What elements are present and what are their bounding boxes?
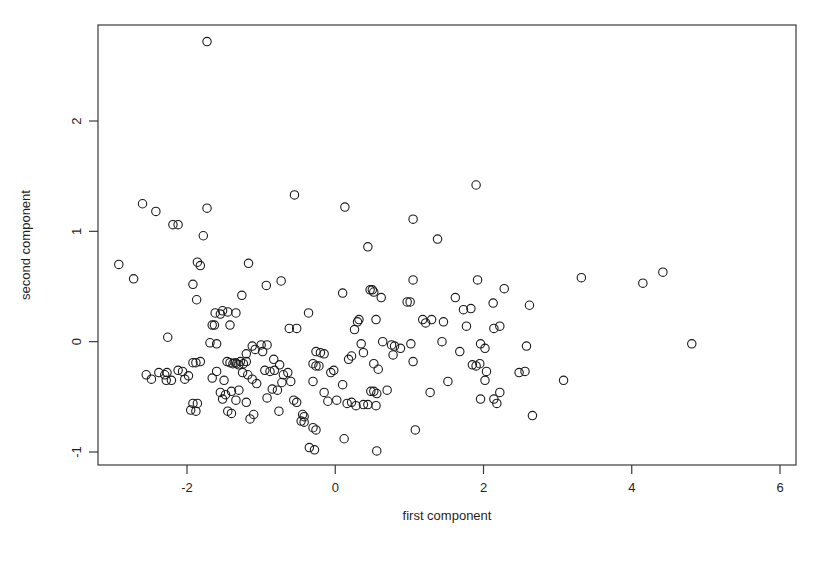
x-tick-label: 6 — [776, 480, 783, 495]
x-tick-label: 2 — [480, 480, 487, 495]
y-axis-title: second component — [18, 190, 33, 300]
x-axis-title: first component — [403, 508, 492, 523]
y-tick-label: -1 — [69, 446, 84, 458]
y-tick-label: 1 — [69, 228, 84, 235]
x-tick-label: -2 — [181, 480, 193, 495]
figure-background — [0, 0, 815, 573]
y-tick-label: 2 — [69, 117, 84, 124]
x-tick-label: 4 — [628, 480, 635, 495]
plot-canvas: -20246 -1012 first component second comp… — [0, 0, 815, 573]
y-tick-label: 0 — [69, 338, 84, 345]
x-tick-label: 0 — [332, 480, 339, 495]
scatter-plot-figure: -20246 -1012 first component second comp… — [0, 0, 815, 573]
